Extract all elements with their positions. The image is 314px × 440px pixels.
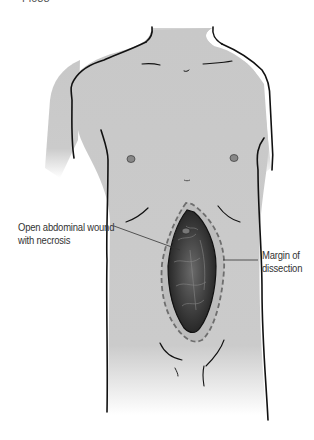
wound-label-line-1: Open abdominal wound bbox=[18, 221, 114, 234]
torso-illustration bbox=[0, 0, 314, 440]
margin-label-line-2: dissection bbox=[262, 262, 302, 275]
margin-label: Margin of dissection bbox=[262, 249, 302, 275]
wound-label-line-2: with necrosis bbox=[18, 234, 114, 247]
margin-label-line-1: Margin of bbox=[262, 249, 302, 262]
wound-label: Open abdominal wound with necrosis bbox=[18, 221, 114, 247]
